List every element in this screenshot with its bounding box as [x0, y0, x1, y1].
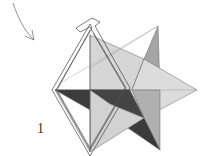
origami-diagram: [0, 0, 208, 156]
curved-arrow-icon: [13, 3, 34, 40]
step-number-label: 1: [37, 121, 44, 137]
